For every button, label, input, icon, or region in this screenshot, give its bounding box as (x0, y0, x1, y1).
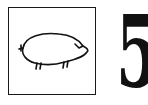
pig-icon (9, 8, 97, 96)
picture-frame (8, 7, 96, 95)
number-label: 5 (116, 0, 135, 104)
